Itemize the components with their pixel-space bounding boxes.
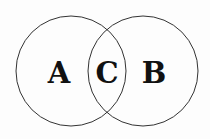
set-b-label: B — [142, 56, 167, 90]
intersection-label: C — [95, 56, 118, 90]
venn-diagram: A C B — [0, 0, 210, 139]
set-a-label: A — [47, 56, 71, 90]
